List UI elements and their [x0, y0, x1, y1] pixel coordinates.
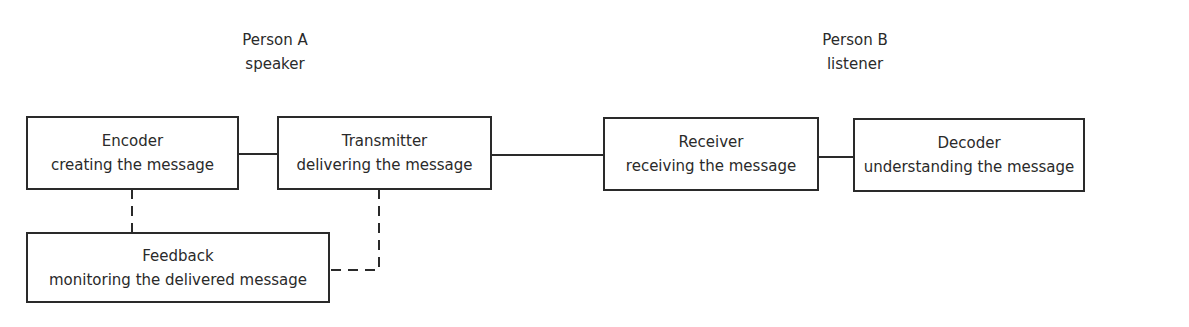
receiver-title: Receiver — [679, 130, 744, 154]
transmitter-feedback-dashed-link — [329, 189, 379, 270]
receiver-box: Receiver receiving the message — [603, 117, 819, 191]
transmitter-subtitle: delivering the message — [296, 153, 472, 177]
encoder-title: Encoder — [102, 129, 163, 153]
encoder-box: Encoder creating the message — [26, 116, 239, 190]
feedback-title: Feedback — [142, 244, 213, 268]
feedback-box: Feedback monitoring the delivered messag… — [26, 232, 330, 303]
receiver-subtitle: receiving the message — [626, 154, 796, 178]
decoder-subtitle: understanding the message — [864, 155, 1075, 179]
transmitter-box: Transmitter delivering the message — [277, 116, 492, 190]
decoder-box: Decoder understanding the message — [853, 118, 1085, 192]
decoder-title: Decoder — [937, 131, 1000, 155]
encoder-subtitle: creating the message — [51, 153, 214, 177]
transmitter-title: Transmitter — [342, 129, 428, 153]
feedback-subtitle: monitoring the delivered message — [49, 268, 307, 292]
